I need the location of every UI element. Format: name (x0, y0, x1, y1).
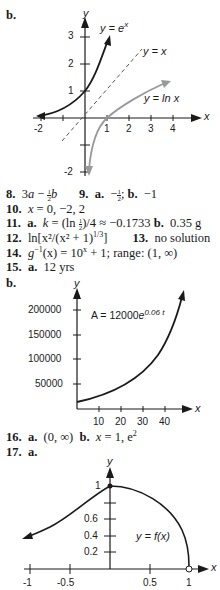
y-tick-neg2: -2 (64, 166, 73, 177)
y-tick-0.2: 0.2 (84, 546, 98, 557)
chart-exp-log: y x 3 2 1 -2 -2 1 2 3 4 y = ex y = x y =… (0, 0, 220, 180)
x-tick-neg1: -1 (23, 577, 32, 588)
y-tick-2: 2 (68, 58, 74, 69)
x-tick-1: 1 (186, 577, 192, 588)
x-tick-30: 30 (137, 416, 148, 427)
x-tick-neg2: -2 (34, 123, 43, 134)
y-tick-0.4: 0.4 (84, 530, 98, 541)
curve-label-fx: y = f(x) (136, 530, 170, 542)
x-tick-1: 1 (104, 123, 110, 134)
chart-fx-svg (0, 455, 220, 590)
y-tick-0.6: 0.6 (84, 513, 98, 524)
x-axis-label: x (211, 561, 217, 573)
y-axis-label: y (74, 277, 80, 289)
y-tick-1: 1 (68, 85, 74, 96)
legend-ln: y = ln x (144, 92, 179, 104)
x-tick-40: 40 (159, 416, 170, 427)
chart-fx: y x 1 0.6 0.4 0.2 -1 -0.5 0.5 1 y = f(x) (0, 455, 220, 590)
answer-16: 16. a. (0, ∞) b. x = 1, e2 (6, 430, 137, 444)
y-tick-100000: 100000 (28, 353, 61, 364)
curve-label-A: A = 12000e0.06 t (91, 309, 164, 321)
x-axis-label: x (195, 402, 201, 414)
x-axis-label: x (204, 110, 210, 122)
x-tick-3: 3 (148, 123, 154, 134)
y-axis-label: y (83, 7, 89, 19)
y-tick-3: 3 (68, 30, 74, 41)
legend-exp: y = ex (100, 22, 128, 34)
x-tick-neg0.5: -0.5 (57, 577, 74, 588)
chart-growth: y x 200000 150000 100000 50000 10 20 30 … (0, 275, 220, 425)
answer-11: 11. a. k = (ln 12)/4 ≈ −0.1733 b. 0.35 g (6, 216, 201, 231)
y-tick-150000: 150000 (28, 329, 61, 340)
y-tick-200000: 200000 (28, 304, 61, 315)
y-tick-50000: 50000 (35, 378, 63, 389)
x-tick-10: 10 (93, 416, 104, 427)
y-axis-label: y (107, 455, 113, 467)
answer-8-9: 8. 3a − 12b 9. a. −12; b. −1 (6, 187, 157, 202)
x-tick-2: 2 (126, 123, 132, 134)
closed-point (108, 484, 113, 489)
x-tick-4: 4 (170, 123, 176, 134)
chart-growth-svg (0, 275, 220, 425)
legend-identity: y = x (143, 45, 167, 57)
answer-15a: 15. a. 12 yrs (6, 260, 74, 274)
x-tick-0.5: 0.5 (143, 577, 157, 588)
answer-12-13: 12. ln[x²/(x² + 1)1/3] 13. no solution (6, 231, 210, 245)
x-tick-20: 20 (115, 416, 126, 427)
open-point (186, 566, 192, 572)
answer-10: 10. x = 0, −2, 2 (6, 202, 85, 216)
answer-14: 14. g−1(x) = 10x + 1; range: (1, ∞) (6, 246, 177, 260)
y-tick-1: 1 (95, 480, 101, 491)
